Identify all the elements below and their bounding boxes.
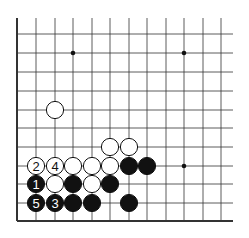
white-stone xyxy=(101,138,118,155)
move-number: 4 xyxy=(51,159,58,174)
white-stone xyxy=(101,157,118,174)
white-stone xyxy=(83,175,100,192)
move-number: 2 xyxy=(32,159,39,174)
star-point xyxy=(182,51,187,56)
white-stone xyxy=(120,138,137,155)
move-number: 1 xyxy=(32,177,39,192)
black-stone xyxy=(101,175,118,192)
black-stone xyxy=(64,175,81,192)
black-stone xyxy=(83,194,100,211)
black-stone: 3 xyxy=(46,194,63,211)
star-point xyxy=(182,164,187,169)
white-stone: 4 xyxy=(46,157,63,174)
white-stone xyxy=(83,157,100,174)
white-stone xyxy=(46,101,63,118)
white-stone xyxy=(64,157,81,174)
black-stone: 5 xyxy=(27,194,44,211)
black-stone xyxy=(138,157,155,174)
move-number: 3 xyxy=(51,196,58,211)
white-stone: 2 xyxy=(27,157,44,174)
star-point xyxy=(71,51,76,56)
go-board: 24153 xyxy=(0,0,249,238)
black-stone: 1 xyxy=(27,175,44,192)
move-number: 5 xyxy=(32,196,39,211)
black-stone xyxy=(120,157,137,174)
black-stone xyxy=(120,194,137,211)
black-stone xyxy=(64,194,81,211)
white-stone xyxy=(46,175,63,192)
